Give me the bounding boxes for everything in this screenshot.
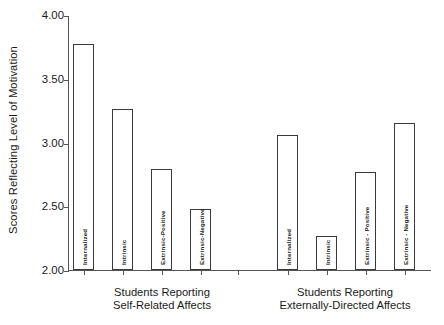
plot-area: InternalizedIntrinsicExtrinsic-PositiveE… [68,16,431,271]
bar-label: Extrinsic-Negative [197,208,204,265]
y-axis-tick-mark [64,271,69,272]
bar-label: Extrinsic - Negative [401,205,408,265]
x-axis-tick-mark [123,271,124,275]
bar: Extrinsic-Negative [190,209,211,270]
bar: Internalized [277,135,298,270]
bar: Extrinsic - Negative [394,123,415,270]
bar-label: Extrinsic-Positive [158,210,165,265]
x-axis-tick-mark [201,271,202,275]
bar: Extrinsic-Positive [151,169,172,270]
bar-label: Intrinsic [119,240,126,265]
y-axis-tick-mark [64,144,69,145]
bar: Intrinsic [316,236,337,270]
x-axis-group-separator-tick [238,271,239,275]
y-axis-tick-label: 3.50 [22,74,64,85]
y-axis-tick-label: 2.00 [22,265,64,276]
bar-chart: Scores Reflecting Level of Motivation 2.… [0,0,444,325]
x-axis-tick-mark [366,271,367,275]
x-axis-tick-mark [327,271,328,275]
bar-label: Internalized [284,229,291,265]
y-axis-tick-label: 2.50 [22,201,64,212]
bar-label: Extrinsic - Positive [362,207,369,265]
x-axis-tick-mark [162,271,163,275]
y-axis-tick-mark [64,80,69,81]
y-axis-tick-labels: 2.002.503.003.504.00 [18,0,64,280]
y-axis-tick-mark [64,207,69,208]
x-axis-group-label-1: Students Reporting Externally-Directed A… [255,286,435,312]
x-axis-tick-mark [405,271,406,275]
x-axis-tick-mark [288,271,289,275]
y-axis-tick-label: 4.00 [22,10,64,21]
bar: Intrinsic [112,109,133,270]
x-axis-group-label-0: Students Reporting Self-Related Affects [78,286,246,312]
bar: Internalized [73,44,94,270]
bar-label: Intrinsic [323,240,330,265]
bar-label: Internalized [80,229,87,265]
y-axis-tick-mark [64,16,69,17]
bar: Extrinsic - Positive [355,172,376,270]
y-axis-tick-label: 3.00 [22,138,64,149]
x-axis-tick-mark [84,271,85,275]
